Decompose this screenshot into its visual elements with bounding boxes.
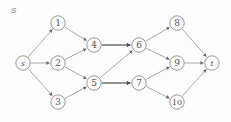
graph-node-label-7: 7 bbox=[136, 78, 142, 88]
graph-edge-7-to-9 bbox=[146, 67, 170, 79]
graph-edge-7-to-10 bbox=[146, 86, 170, 98]
graph-arrowhead-4-to-6 bbox=[127, 43, 131, 48]
graph-node-2[interactable]: 2 bbox=[51, 56, 65, 70]
graph-node-label-s: s bbox=[21, 59, 25, 68]
graph-node-10[interactable]: 10 bbox=[170, 95, 184, 109]
graph-node-t[interactable]: t bbox=[205, 56, 219, 70]
graph-edge-s-to-3 bbox=[28, 69, 52, 96]
graph-figure: S s12345678910t bbox=[0, 0, 231, 122]
graph-edge-1-to-4 bbox=[65, 27, 87, 41]
graph-node-1[interactable]: 1 bbox=[51, 16, 65, 30]
graph-node-5[interactable]: 5 bbox=[87, 76, 101, 90]
graph-node-3[interactable]: 3 bbox=[51, 95, 65, 109]
graph-edge-2-to-4 bbox=[65, 49, 87, 60]
graph-arrowhead-9-to-t bbox=[200, 61, 203, 65]
graph-node-s[interactable]: s bbox=[16, 56, 30, 70]
graph-node-label-2: 2 bbox=[55, 58, 61, 68]
graph-node-label-4: 4 bbox=[91, 40, 97, 50]
graph-arrowhead-5-to-7 bbox=[127, 81, 131, 86]
graph-edge-10-to-t bbox=[182, 69, 206, 96]
directed-graph-canvas: s12345678910t bbox=[0, 0, 231, 122]
graph-node-7[interactable]: 7 bbox=[132, 76, 146, 90]
graph-node-4[interactable]: 4 bbox=[87, 38, 101, 52]
graph-node-label-5: 5 bbox=[91, 78, 97, 88]
graph-edge-8-to-t bbox=[182, 29, 206, 57]
graph-node-label-3: 3 bbox=[55, 97, 61, 107]
graph-nodes-layer: s12345678910t bbox=[16, 16, 219, 109]
graph-node-6[interactable]: 6 bbox=[132, 38, 146, 52]
graph-edge-3-to-5 bbox=[65, 87, 87, 98]
graph-node-label-10: 10 bbox=[172, 98, 182, 107]
graph-node-label-8: 8 bbox=[174, 18, 180, 28]
graph-node-label-1: 1 bbox=[55, 18, 61, 28]
graph-node-label-9: 9 bbox=[174, 58, 180, 68]
graph-edge-5-to-6 bbox=[100, 50, 133, 78]
graph-edge-s-to-1 bbox=[28, 29, 52, 57]
graph-arrowhead-s-to-2 bbox=[46, 61, 49, 65]
graph-node-9[interactable]: 9 bbox=[170, 56, 184, 70]
graph-node-label-6: 6 bbox=[136, 40, 142, 50]
graph-edge-6-to-9 bbox=[146, 48, 169, 59]
graph-edge-6-to-8 bbox=[146, 27, 170, 41]
graph-edge-2-to-5 bbox=[65, 67, 87, 79]
graph-node-8[interactable]: 8 bbox=[170, 16, 184, 30]
